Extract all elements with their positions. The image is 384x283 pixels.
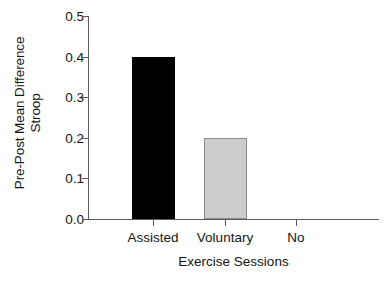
y-tick-label: 0.3: [54, 91, 84, 105]
y-axis-tick-labels: 0.5 0.4 0.3 0.2 0.1 0.0: [52, 0, 84, 283]
y-axis-label: Pre-Post Mean Difference Stroop: [0, 0, 56, 225]
x-axis-label: Exercise Sessions: [88, 255, 379, 269]
y-tick-label: 0.4: [54, 51, 84, 65]
y-axis-label-text: Pre-Post Mean Difference Stroop: [12, 36, 44, 189]
x-axis-tick: [225, 220, 226, 226]
x-axis-tick: [153, 220, 154, 226]
y-tick-label: 0.1: [54, 172, 84, 186]
x-tick-label-assisted: Assisted: [127, 231, 178, 245]
bar-chart-figure: Pre-Post Mean Difference Stroop 0.5 0.4 …: [0, 0, 384, 283]
y-axis-tick: [82, 138, 88, 139]
y-axis-tick: [82, 219, 88, 220]
bar-assisted: [132, 57, 175, 219]
y-axis-label-line2: Stroop: [28, 36, 44, 189]
y-axis-label-line1: Pre-Post Mean Difference: [12, 36, 28, 189]
y-axis-tick: [82, 16, 88, 17]
bar-voluntary: [204, 138, 247, 219]
y-axis-tick: [82, 97, 88, 98]
y-tick-label: 0.2: [54, 132, 84, 146]
x-tick-label-voluntary: Voluntary: [197, 231, 253, 245]
y-axis-tick: [82, 57, 88, 58]
x-axis-tick: [296, 220, 297, 226]
y-tick-label: 0.5: [54, 10, 84, 24]
y-axis-line: [88, 16, 89, 220]
y-tick-label: 0.0: [54, 213, 84, 227]
x-axis-line: [88, 219, 379, 220]
y-axis-tick: [82, 178, 88, 179]
x-tick-label-no: No: [287, 231, 304, 245]
